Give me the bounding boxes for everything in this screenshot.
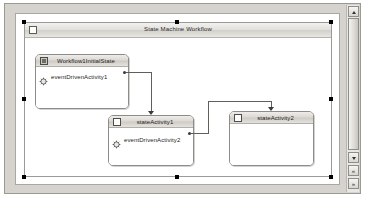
connector-segment bbox=[191, 133, 209, 134]
event-driven-activity-icon bbox=[112, 135, 121, 144]
selection-handle-bottom-center[interactable] bbox=[175, 175, 179, 179]
nav-previous-glyph: « bbox=[349, 166, 358, 176]
selection-handle-top-left[interactable] bbox=[22, 20, 26, 24]
connector-segment bbox=[126, 72, 152, 73]
selection-handle-top-right[interactable] bbox=[329, 20, 333, 24]
root-title-bar[interactable]: State Machine Workflow bbox=[25, 23, 331, 38]
root-title-label: State Machine Workflow bbox=[25, 25, 331, 34]
state-box-workflow1-initial-state[interactable]: Workflow1InitialState eventDrivenActivit… bbox=[35, 54, 129, 109]
connector-segment bbox=[151, 72, 152, 113]
connector-segment bbox=[208, 101, 272, 102]
selection-handle-bottom-left[interactable] bbox=[22, 175, 26, 179]
state-title-workflow1-initial-state: Workflow1InitialState bbox=[36, 56, 128, 66]
scrollbar-thumb[interactable] bbox=[348, 18, 359, 150]
activity-event-driven-activity-1[interactable]: eventDrivenActivity1 bbox=[39, 71, 127, 83]
state-title-state-activity-1: stateActivity1 bbox=[109, 117, 193, 127]
activity-label-event-driven-activity-1: eventDrivenActivity1 bbox=[51, 72, 107, 82]
scroll-up-arrow-glyph bbox=[352, 11, 356, 14]
state-body-workflow1-initial-state[interactable]: eventDrivenActivity1 bbox=[36, 67, 128, 108]
state-box-state-activity-2[interactable]: stateActivity2 bbox=[229, 111, 314, 166]
nav-next-glyph: » bbox=[349, 179, 358, 189]
application-window: State Machine Workflow Workflow1InitialS… bbox=[4, 3, 361, 194]
state-header-state-activity-1[interactable]: stateActivity1 bbox=[109, 116, 193, 128]
connector-segment bbox=[208, 101, 209, 134]
selection-handle-bottom-right[interactable] bbox=[329, 175, 333, 179]
state-body-state-activity-2[interactable] bbox=[230, 124, 313, 165]
selection-handle-top-center[interactable] bbox=[175, 20, 179, 24]
state-body-state-activity-1[interactable]: eventDrivenActivity2 bbox=[109, 128, 193, 165]
root-workflow-body[interactable]: Workflow1InitialState eventDrivenActivit… bbox=[25, 38, 331, 176]
workflow-designer-surface[interactable]: State Machine Workflow Workflow1InitialS… bbox=[15, 13, 340, 185]
connector-arrowhead bbox=[268, 107, 274, 111]
state-box-state-activity-1[interactable]: stateActivity1 eventDrivenActivity2 bbox=[108, 115, 194, 166]
event-driven-activity-icon bbox=[39, 72, 48, 81]
scroll-down-icon[interactable] bbox=[348, 152, 359, 163]
scroll-up-icon[interactable] bbox=[348, 6, 359, 17]
state-title-state-activity-2: stateActivity2 bbox=[230, 113, 313, 123]
nav-previous-icon[interactable]: « bbox=[348, 165, 359, 176]
activity-event-driven-activity-2[interactable]: eventDrivenActivity2 bbox=[112, 134, 192, 146]
state-header-state-activity-2[interactable]: stateActivity2 bbox=[230, 112, 313, 124]
state-machine-workflow-root[interactable]: State Machine Workflow Workflow1InitialS… bbox=[24, 22, 332, 177]
vertical-scrollbar[interactable]: « » bbox=[346, 5, 359, 192]
selection-handle-middle-right[interactable] bbox=[329, 97, 333, 101]
scroll-down-arrow-glyph bbox=[352, 157, 356, 160]
nav-next-icon[interactable]: » bbox=[348, 178, 359, 189]
state-header-workflow1-initial-state[interactable]: Workflow1InitialState bbox=[36, 55, 128, 67]
connector-arrowhead bbox=[148, 111, 154, 115]
activity-label-event-driven-activity-2: eventDrivenActivity2 bbox=[124, 135, 180, 145]
selection-handle-middle-left[interactable] bbox=[22, 97, 26, 101]
